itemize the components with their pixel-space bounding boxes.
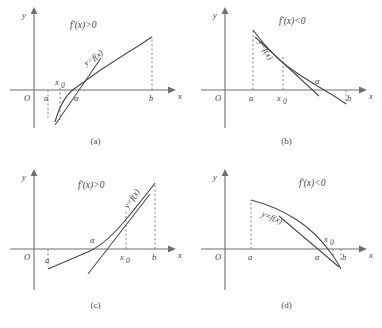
origin-label-a: O [24,93,30,103]
condition-a: f'(x)>0 [70,20,97,31]
tick-x0-label-c: x [119,252,124,262]
y-axis-arrow-c [31,169,38,176]
y-axis-arrow-d [222,169,229,176]
x-axis-label-a: x [177,91,182,101]
condition-c: f'(x)>0 [78,180,105,191]
x-axis-arrow-a [168,87,176,94]
tick-x0-label-b: x [276,93,281,103]
caption-c: (c) [0,300,191,310]
tick-b-label-c: b [152,252,156,262]
tick-a-label-a: a [44,93,48,103]
y-axis-label-d: y [212,172,217,182]
condition-d: f'(x)<0 [299,178,326,189]
y-axis-label-c: y [21,172,26,182]
x-axis-arrow-d [359,246,367,253]
tick-alpha-label-b: α [315,76,320,86]
curve-a [55,37,152,122]
tangent-c [88,194,150,274]
x-axis-label-c: x [177,250,182,260]
tick-a-label-b: a [249,93,253,103]
figure-sheet: O x y a x 0 α b f'(x)>0 y=f(x) (a) [0,0,382,328]
tick-x0-sub-d: 0 [330,238,334,247]
curve-label-c: y=f(x) [121,187,142,211]
tick-alpha-label-c: α [90,235,95,245]
origin-label-d: O [215,252,221,262]
origin-label-b: O [215,93,221,103]
tick-x0-sub-c: 0 [126,256,130,265]
tick-alpha-label-a: α [74,93,79,103]
tick-b-label-a: b [149,93,153,103]
tangent-a [55,58,101,125]
curve-label-b: y=f(x) [256,37,276,61]
x-axis-label-d: x [368,250,373,260]
x-axis-label-b: x [368,91,373,101]
caption-a: (a) [0,136,191,146]
y-axis-arrow-a [31,7,38,14]
tick-x0-sub-b: 0 [283,97,287,106]
tick-alpha-label-d: α [315,252,320,262]
condition-b: f'(x)<0 [279,16,306,27]
tick-a-label-c: a [45,255,49,265]
curve-label-a: y=f(x) [81,47,105,68]
origin-label-c: O [24,252,30,262]
y-axis-arrow-b [222,7,229,14]
x-axis-arrow-b [359,87,367,94]
tick-x0-label-a: x [54,77,59,87]
x-axis-arrow-c [168,246,176,253]
tick-b-label-d: b [342,252,346,262]
tick-x0-label-d: x [323,234,328,244]
caption-b: (b) [191,136,382,146]
tick-x0-sub-a: 0 [61,81,65,90]
y-axis-label-a: y [21,10,26,20]
y-axis-label-b: y [212,10,217,20]
axes-d [201,169,367,290]
tick-b-label-b: b [347,93,351,103]
tick-a-label-d: a [248,252,252,262]
caption-d: (d) [191,300,382,310]
